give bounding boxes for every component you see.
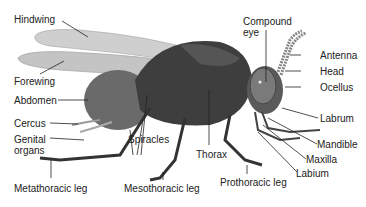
label-compound-eye-line1: Compound [243,16,292,27]
label-compound-eye-line2: eye [243,27,259,38]
label-spiracles: Spiracles [128,134,169,145]
label-labrum: Labrum [320,113,354,124]
label-ocellus: Ocellus [320,82,353,93]
label-head: Head [320,66,344,77]
label-maxilla: Maxilla [306,154,337,165]
label-cercus: Cercus [14,118,46,129]
label-mandible: Mandible [317,139,358,150]
label-metathoracic-leg: Metathoracic leg [14,183,87,194]
label-abdomen: Abdomen [14,95,57,106]
label-genital-organs-line1: Genital [14,134,46,145]
label-antenna: Antenna [320,50,357,61]
mesothoracic-leg-shape [150,118,185,180]
label-thorax: Thorax [196,149,227,160]
label-genital-organs-line2: organs [14,145,45,156]
label-hindwing: Hindwing [14,14,55,25]
label-mesothoracic-leg: Mesothoracic leg [124,183,200,194]
label-prothoracic-leg: Prothoracic leg [220,177,287,188]
compound-eye-shape [250,68,276,104]
label-labium: Labium [296,168,329,179]
label-forewing: Forewing [14,76,55,87]
